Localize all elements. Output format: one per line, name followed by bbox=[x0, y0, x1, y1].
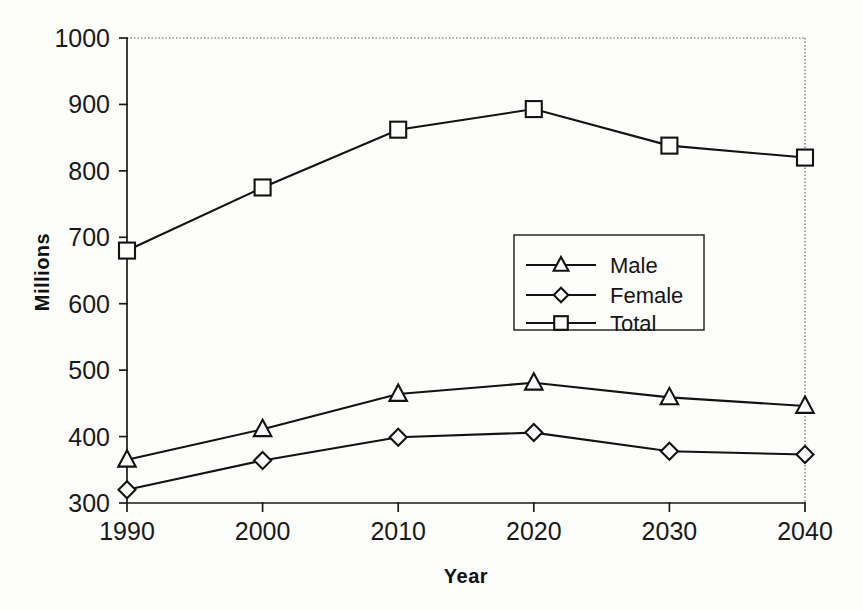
y-tick-label: 800 bbox=[68, 157, 110, 185]
x-tick-label: 2010 bbox=[370, 517, 426, 545]
y-tick-label: 500 bbox=[68, 356, 110, 384]
x-tick-label: 1990 bbox=[99, 517, 155, 545]
data-point-marker bbox=[255, 179, 271, 195]
x-tick-label: 2030 bbox=[642, 517, 698, 545]
data-point-marker bbox=[797, 150, 813, 166]
legend-label: Female bbox=[610, 283, 683, 308]
x-tick-label: 2020 bbox=[506, 517, 562, 545]
y-tick-label: 1000 bbox=[54, 24, 110, 52]
line-chart-canvas: 3004005006007008009001000 19902000201020… bbox=[0, 0, 862, 610]
chart-figure: 3004005006007008009001000 19902000201020… bbox=[0, 0, 862, 610]
y-tick-label: 900 bbox=[68, 90, 110, 118]
y-tick-label: 400 bbox=[68, 423, 110, 451]
data-point-marker bbox=[661, 138, 677, 154]
legend-marker-square bbox=[554, 316, 568, 330]
chart-legend: MaleFemaleTotal bbox=[514, 235, 704, 336]
y-tick-label: 700 bbox=[68, 223, 110, 251]
y-axis-title: Millions bbox=[31, 233, 53, 311]
data-point-marker bbox=[119, 243, 135, 259]
x-tick-label: 2040 bbox=[777, 517, 833, 545]
data-point-marker bbox=[390, 122, 406, 138]
x-axis-title: Year bbox=[444, 565, 488, 587]
y-tick-label: 300 bbox=[68, 489, 110, 517]
data-point-marker bbox=[526, 101, 542, 117]
legend-label: Male bbox=[610, 253, 658, 278]
x-tick-label: 2000 bbox=[235, 517, 291, 545]
legend-label: Total bbox=[610, 311, 656, 336]
y-tick-label: 600 bbox=[68, 290, 110, 318]
